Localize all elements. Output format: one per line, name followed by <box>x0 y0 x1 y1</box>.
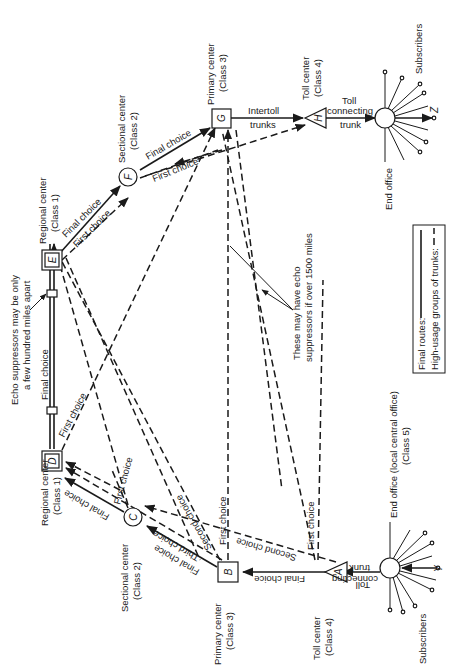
label-b-g-first: First choice <box>217 496 228 545</box>
label-e-type: Regional center <box>37 177 48 244</box>
route-e-f-final <box>60 186 120 253</box>
echo-long-line1: These may have echo <box>291 267 302 360</box>
label-h-type: Toll center <box>300 57 311 100</box>
label-tc-left-2: connecting <box>332 574 378 585</box>
label-tc-left-3: trunk <box>349 563 370 574</box>
label-z: Z <box>429 106 440 114</box>
node-e: E <box>42 250 62 270</box>
label-f-type: Sectional center <box>116 95 127 163</box>
legend-high-usage: High-usage groups of trunks: <box>429 248 440 370</box>
node-g: G <box>212 109 231 128</box>
label-a-c-second: Second choice <box>235 536 298 564</box>
label-subscribers-left: Subscribers <box>417 614 428 664</box>
echo-short-line2: a few hundred miles apart <box>21 280 32 390</box>
label-c-d-first: First choice <box>111 456 134 506</box>
svg-text:G: G <box>216 114 227 122</box>
label-b-type: Primary center <box>212 603 223 665</box>
end-office-left <box>380 522 440 614</box>
label-d-e-final: Final choice <box>39 349 50 400</box>
hu-d-c-first <box>66 462 120 490</box>
node-b: B <box>218 562 238 582</box>
node-f: F <box>119 168 137 186</box>
label-d-class: (Class 1) <box>51 477 62 515</box>
legend: Final routes: High-usage groups of trunk… <box>413 225 445 373</box>
label-c-d-final: Final choice <box>62 488 111 523</box>
legend-final-routes: Final routes: <box>416 318 427 370</box>
label-b-class: (Class 3) <box>224 612 235 650</box>
echo-suppressor-marker-bottom <box>47 407 57 414</box>
label-f-class: (Class 2) <box>128 112 139 150</box>
label-y: Y <box>433 564 444 572</box>
echo-long-pointer-1 <box>230 246 293 310</box>
label-c-type: Sectional center <box>119 544 130 612</box>
node-h: H <box>305 108 326 128</box>
svg-text:C: C <box>128 513 139 521</box>
label-intertoll-2: trunks <box>250 119 276 130</box>
hu-c-e <box>58 258 128 505</box>
label-d-type: Regional center <box>39 459 50 526</box>
hu-a-b-first <box>318 280 323 560</box>
svg-text:B: B <box>223 568 234 575</box>
label-tc-right-3: trunk <box>340 119 361 130</box>
label-a-type: Toll center <box>311 617 322 660</box>
label-g-class: (Class 3) <box>217 54 228 92</box>
svg-text:E: E <box>47 256 58 263</box>
label-tc-right-2: connecting <box>327 105 373 116</box>
echo-suppressor-marker-top <box>47 290 57 297</box>
node-c: C <box>124 508 142 526</box>
label-a-b-final: Final choice <box>254 574 305 585</box>
label-c-class: (Class 2) <box>131 562 142 600</box>
label-d-g-first: First choice <box>56 391 89 439</box>
end-office-right <box>375 70 436 162</box>
label-end-office-right: End office <box>383 168 394 210</box>
echo-short-line1: Echo suppressors may be only <box>9 275 20 405</box>
label-a-class: (Class 4) <box>323 618 334 656</box>
echo-long-pointer-2 <box>262 290 293 310</box>
label-intertoll-1: Intertoll <box>248 105 279 116</box>
hu-g-down <box>236 130 282 490</box>
label-g-type: Primary center <box>205 43 216 105</box>
toll-hierarchy-diagram: A B C D E F G H <box>0 0 454 669</box>
echo-long-line2: suppressors if over 1500 miles <box>303 233 314 362</box>
svg-text:H: H <box>313 114 324 122</box>
label-f-g-final: Final choice <box>144 127 193 162</box>
svg-text:F: F <box>123 173 134 180</box>
label-h-class: (Class 4) <box>312 59 323 97</box>
label-e-class: (Class 1) <box>49 194 60 232</box>
label-end-office-left-1: End office (local central office) <box>388 391 399 518</box>
label-a-first: First choice <box>305 501 316 550</box>
label-end-office-left-2: (Class 5) <box>400 427 411 465</box>
label-subscribers-right: Subscribers <box>413 24 424 74</box>
echo-short-pointer <box>30 294 46 310</box>
